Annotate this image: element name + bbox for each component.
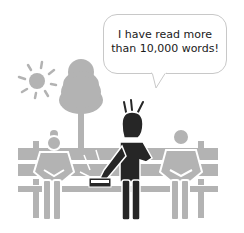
seated-person-left xyxy=(34,130,74,220)
speech-line-1: I have read more xyxy=(111,28,219,42)
book-icon xyxy=(89,178,111,187)
speech-bubble-text: I have read more than 10,000 words! xyxy=(111,28,219,56)
speech-bubble: I have read more than 10,000 words! xyxy=(103,14,227,74)
tree-icon xyxy=(59,59,103,150)
speech-bubble-tail xyxy=(150,72,170,90)
sun-icon xyxy=(19,62,56,98)
seated-person-right xyxy=(160,129,202,220)
speech-line-2: than 10,000 words! xyxy=(111,42,219,56)
